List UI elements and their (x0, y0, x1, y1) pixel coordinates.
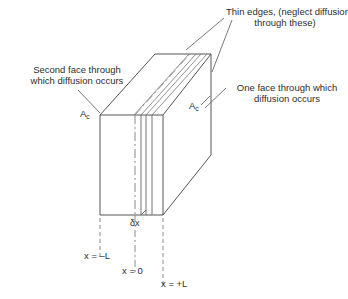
label-x-zero: x = 0 (122, 265, 143, 276)
label-second-face: Second face through which diffusion occu… (16, 64, 138, 86)
label-area-ac-right: Ac (189, 100, 199, 114)
diffusion-slab-figure: Thin edges, (neglect diffusion through t… (0, 0, 348, 299)
label-x-negative-L: x = –L (84, 250, 110, 261)
label-thin-edges: Thin edges, (neglect diffusion through t… (226, 6, 344, 28)
leader-thin-edges-a (186, 18, 224, 50)
diagram-canvas (0, 0, 348, 299)
element-slab-lines (141, 115, 152, 215)
label-x-positive-L: x = +L (161, 278, 187, 289)
label-element-thickness: δx (130, 218, 140, 229)
label-one-face: One face through which diffusion occurs (228, 82, 346, 104)
right-side-face (163, 54, 211, 215)
deltax-leader (141, 210, 146, 215)
front-face (100, 115, 163, 215)
deltax-tick (141, 210, 146, 215)
area-subscript-left: c (86, 113, 90, 120)
leader-ac-right (201, 96, 210, 105)
centerline-top (135, 54, 190, 115)
label-area-ac-left: Ac (80, 108, 90, 122)
area-subscript-right: c (195, 105, 199, 112)
